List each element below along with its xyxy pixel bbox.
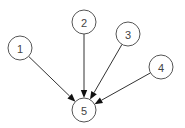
arrowhead-icon <box>90 91 97 100</box>
edge-line <box>29 56 70 96</box>
arrowhead-icon <box>94 97 103 104</box>
node-2: 2 <box>72 10 96 34</box>
edge-line <box>101 73 150 100</box>
node-1: 1 <box>8 36 32 60</box>
directed-graph: 12345 <box>0 0 185 128</box>
edge-2-to-5 <box>81 34 87 98</box>
node-5: 5 <box>72 98 96 122</box>
node-label: 5 <box>81 105 87 117</box>
node-label: 1 <box>17 43 23 55</box>
node-label: 2 <box>81 17 87 29</box>
node-3: 3 <box>116 22 140 46</box>
nodes-layer: 12345 <box>8 10 173 122</box>
node-label: 4 <box>158 62 164 74</box>
edge-1-to-5 <box>29 56 76 101</box>
node-4: 4 <box>149 55 173 79</box>
arrowhead-icon <box>81 90 87 98</box>
edge-line <box>94 44 122 92</box>
node-label: 3 <box>125 29 131 41</box>
